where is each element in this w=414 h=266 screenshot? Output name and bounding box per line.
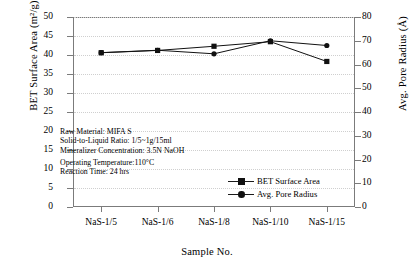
data-point-marker (155, 48, 160, 53)
chart-root: BET Surface Area (m²/g) Avg. Pore Radius… (0, 0, 414, 266)
legend: BET Surface AreaAvg. Pore Radius (228, 175, 320, 201)
data-point-marker (211, 44, 216, 49)
annotation-line: Operating Temperature:110°C (60, 158, 184, 167)
data-point-marker (211, 51, 216, 56)
data-point-marker (268, 38, 273, 43)
conditions-annotation: Raw Material: MIFA SSolid-to-Liquid Rati… (60, 127, 184, 177)
annotation-line: Mineralizer Concentration: 3.5N NaOH (60, 146, 184, 155)
legend-item: BET Surface Area (228, 175, 320, 188)
legend-label: BET Surface Area (257, 175, 320, 188)
legend-marker-square-icon (228, 176, 254, 187)
data-point-marker (99, 50, 104, 55)
legend-label: Avg. Pore Radius (257, 188, 317, 201)
data-point-marker (324, 59, 329, 64)
data-point-marker (324, 43, 329, 48)
annotation-line: Raw Material: MIFA S (60, 127, 184, 136)
annotation-line: Solid-to-Liquid Ratio: 1/5~1g/15ml (60, 136, 184, 145)
legend-item: Avg. Pore Radius (228, 188, 320, 201)
legend-marker-circle-icon (228, 189, 254, 200)
annotation-line: Reaction Time: 24 hrs (60, 167, 184, 176)
